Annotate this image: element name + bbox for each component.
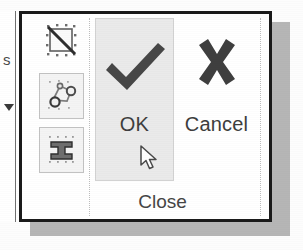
clipped-label-text: s [3,51,11,68]
ok-button[interactable]: OK [95,18,174,181]
cancel-button[interactable]: Cancel [177,18,256,181]
panel-separator-right [260,18,261,216]
x-mark-icon [177,32,256,104]
tool-icon-column [34,19,90,214]
tool-button-delete-constraints[interactable] [39,19,84,65]
tool-button-constraint-bar[interactable] [39,127,84,173]
delete-constraints-icon [39,19,84,65]
constraint-bar-icon [40,128,83,172]
auto-constrain-icon [40,74,83,118]
tool-button-auto-constrain[interactable] [39,73,84,119]
cancel-button-label: Cancel [177,113,256,136]
adjacent-panel-strip: s [0,11,19,222]
scanned-page-background: s [0,0,303,250]
ok-button-label: OK [95,113,174,136]
panel-separator-left [89,18,90,216]
panel-body: OK Cancel Close [22,14,269,219]
close-ribbon-panel: OK Cancel Close [19,11,272,222]
triangle-down-icon[interactable] [4,104,14,111]
arrow-pointer-cursor [140,145,160,172]
panel-title-text: Close [138,191,187,212]
panel-edge-divider [15,11,16,222]
close-panel-title: Close [22,191,269,213]
checkmark-icon [95,32,174,104]
